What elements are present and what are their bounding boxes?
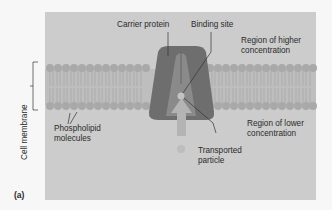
phospholipid-label-1: Phospholipid <box>54 124 101 134</box>
higher-concentration-label-1: Region of higher <box>241 36 301 46</box>
lower-concentration-label-2: concentration <box>247 129 296 139</box>
lower-concentration-label-1: Region of lower <box>247 119 304 129</box>
membrane-diagram <box>0 0 332 210</box>
phospholipid-label-2: molecules <box>54 134 91 144</box>
binding-site-label: Binding site <box>191 20 233 30</box>
higher-concentration-label-2: concentration <box>241 46 290 56</box>
panel-label: (a) <box>14 190 24 200</box>
transported-particle <box>177 145 185 153</box>
cell-membrane-label: Cell membrane <box>20 112 30 160</box>
transported-particle-label-2: particle <box>198 156 224 166</box>
transported-particle-label-1: Transported <box>198 146 242 156</box>
carrier-protein-label: Carrier protein <box>117 20 169 30</box>
bound-particle <box>178 93 185 100</box>
